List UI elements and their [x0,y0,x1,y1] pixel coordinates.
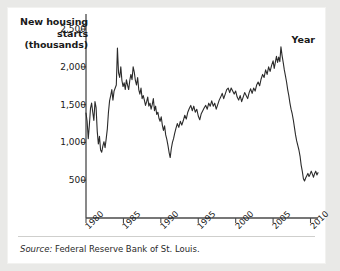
y-axis-tick-labels: 5001,0001,5002,0002,500 [34,8,86,230]
data-line-new-housing-starts [86,47,318,181]
y-tick-label: 2,000 [42,62,86,72]
y-tick-label: 1,000 [42,137,86,147]
figure-card: New housing starts (thousands) 5001,0001… [8,8,325,263]
y-tick-label: 500 [42,175,86,185]
y-tick-label: 2,500 [42,24,86,34]
source-prefix: Source: [20,244,52,254]
y-tick-label: 1,500 [42,100,86,110]
chart-plot-area: New housing starts (thousands) 5001,0001… [8,8,325,230]
source-text: Federal Reserve Bank of St. Louis. [55,244,200,254]
axis-lines [86,14,318,218]
x-axis-title: Year [291,34,315,45]
source-note: Source: Federal Reserve Bank of St. Loui… [20,244,200,254]
source-divider [18,236,315,237]
x-axis-tick-labels: 1980198519901995200020052010 [8,224,325,260]
